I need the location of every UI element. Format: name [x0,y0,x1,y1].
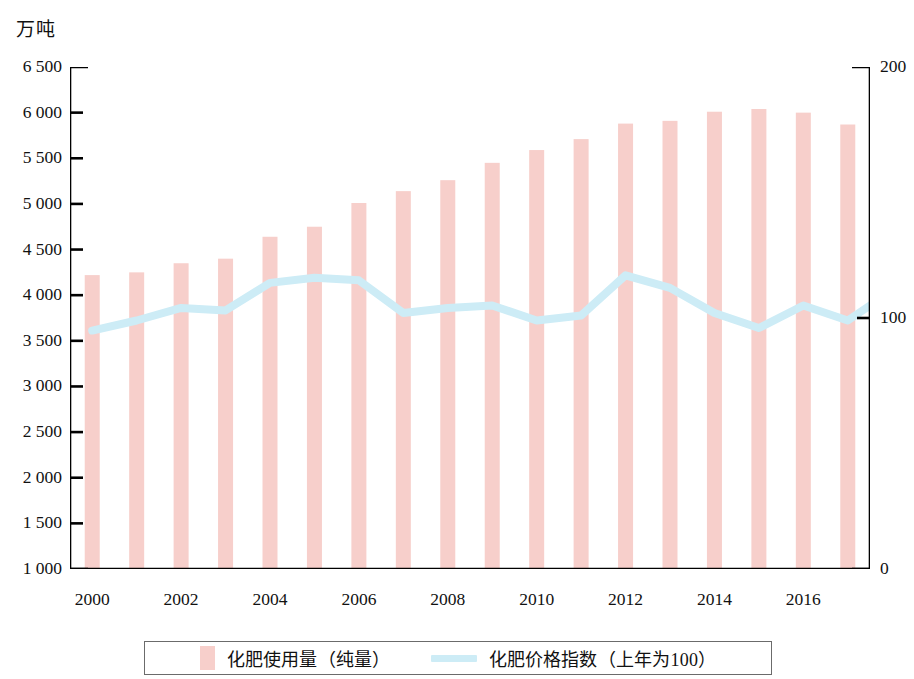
x-tick-label: 2000 [62,591,122,609]
bar [351,203,366,569]
legend-entry-fertilizer-use: 化肥使用量（纯量） [200,645,391,671]
left-tick-label: 3 500 [23,332,62,350]
plot-canvas [70,67,870,569]
x-tick-label: 2002 [151,591,211,609]
left-tick-label: 4 000 [23,286,62,304]
chart-legend: 化肥使用量（纯量） 化肥价格指数（上年为100） [144,641,772,675]
right-tick-label: 0 [880,560,889,578]
left-tick-label: 2 500 [23,423,62,441]
right-tick-label: 100 [880,309,906,327]
left-tick-label: 5 000 [23,195,62,213]
bar [396,191,411,569]
bar [707,112,722,569]
bar [751,109,766,569]
bar [796,113,811,569]
legend-label-price-index: 化肥价格指数（上年为100） [489,645,717,671]
legend-line-swatch-icon [431,655,477,662]
bar [618,124,633,569]
bar [663,121,678,569]
legend-entry-price-index: 化肥价格指数（上年为100） [431,645,717,671]
legend-label-fertilizer-use: 化肥使用量（纯量） [227,645,391,671]
fertilizer-use-and-price-index-chart: 万吨 6 5006 0005 5005 0004 5004 0003 5003 … [0,0,914,679]
left-tick-label: 3 000 [23,377,62,395]
bar [840,125,855,570]
bar [85,275,100,569]
left-tick-marks [70,113,83,524]
x-tick-label: 2014 [684,591,744,609]
bar [485,163,500,569]
left-tick-label: 2 000 [23,469,62,487]
left-tick-label: 5 500 [23,149,62,167]
right-tick-label: 200 [880,58,906,76]
left-tick-label: 4 500 [23,241,62,259]
x-tick-label: 2012 [596,591,656,609]
bar [529,150,544,569]
bar [574,139,589,569]
x-tick-label: 2010 [507,591,567,609]
x-tick-label: 2016 [773,591,833,609]
left-tick-label: 1 500 [23,514,62,532]
x-tick-label: 2008 [418,591,478,609]
left-tick-label: 6 500 [23,58,62,76]
left-tick-label: 1 000 [23,560,62,578]
x-tick-label: 2004 [240,591,300,609]
legend-bar-swatch-icon [200,646,215,670]
left-tick-label: 6 000 [23,104,62,122]
y-axis-unit-caption: 万吨 [16,14,55,41]
x-tick-label: 2006 [329,591,389,609]
bar [440,180,455,569]
plot-area [70,67,870,569]
bar-series-group [85,109,856,569]
